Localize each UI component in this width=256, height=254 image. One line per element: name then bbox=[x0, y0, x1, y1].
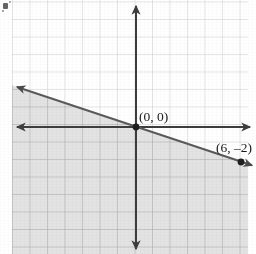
label-point-6-neg2: (6, –2) bbox=[216, 141, 252, 155]
point-6-neg2 bbox=[238, 159, 245, 166]
label-origin-point: (0, 0) bbox=[139, 110, 168, 124]
coordinate-plane-svg bbox=[0, 0, 256, 254]
scan-artifact-speck bbox=[3, 3, 8, 9]
scan-artifact-speck-small bbox=[2, 10, 4, 12]
point-origin bbox=[133, 124, 140, 131]
graph-figure: (0, 0) (6, –2) bbox=[0, 0, 256, 254]
scan-artifact-speck-tiny bbox=[9, 1, 11, 3]
